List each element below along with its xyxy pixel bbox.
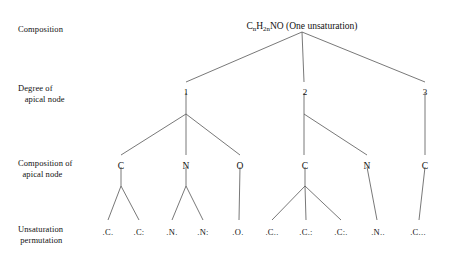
tree-edge bbox=[302, 32, 425, 82]
tree-node-comp-3-c: C bbox=[422, 162, 428, 171]
tree-edge bbox=[239, 167, 240, 220]
tree-node-perm-6: .C.. bbox=[265, 228, 278, 237]
tree-node-perm-9: .N.. bbox=[371, 228, 385, 237]
tree-node-perm-5: .O. bbox=[232, 228, 243, 237]
tree-node-comp-2-c: C bbox=[302, 162, 308, 171]
formula-tail: NO (One unsaturation) bbox=[270, 21, 358, 31]
tree-node-degree-1: 1 bbox=[184, 88, 189, 97]
tree-node-degree-3: 3 bbox=[423, 88, 428, 97]
tree-node-perm-8: .C:. bbox=[334, 228, 347, 237]
tree-edge bbox=[121, 114, 186, 155]
tree-edge bbox=[186, 186, 203, 220]
tree-node-perm-3: .N. bbox=[166, 228, 177, 237]
tree-node-perm-4: .N: bbox=[197, 228, 209, 237]
tree-edge bbox=[272, 186, 305, 220]
tree-node-perm-10: .C... bbox=[410, 228, 426, 237]
tree-edge bbox=[419, 167, 425, 220]
tree-edge bbox=[305, 186, 341, 220]
tree-edge bbox=[302, 32, 304, 82]
tree-edge bbox=[121, 186, 139, 220]
tree-node-comp-1-n: N bbox=[183, 162, 190, 171]
tree-edge bbox=[305, 186, 306, 220]
row-label-unsaturation-permutation: Unsaturation permutation bbox=[18, 224, 63, 245]
row-label-composition: Composition bbox=[18, 24, 63, 35]
tree-edge bbox=[304, 114, 367, 155]
tree-edge bbox=[186, 32, 302, 82]
tree-node-comp-2-n: N bbox=[364, 162, 371, 171]
root-node-formula: CnH2nNO (One unsaturation) bbox=[246, 22, 357, 33]
formula-h: H bbox=[256, 21, 263, 31]
tree-edge bbox=[367, 167, 377, 220]
tree-node-perm-2: .C: bbox=[133, 228, 144, 237]
tree-node-comp-1-c: C bbox=[118, 162, 124, 171]
figure-canvas: CompositionDegree of apical nodeComposit… bbox=[0, 0, 452, 262]
tree-node-perm-7: .C.: bbox=[299, 228, 312, 237]
row-label-composition-of-apical-node: Composition of apical node bbox=[18, 158, 73, 179]
tree-edge bbox=[172, 186, 186, 220]
tree-node-perm-1: .C. bbox=[103, 228, 114, 237]
tree-edge bbox=[186, 114, 240, 155]
row-label-degree-of-apical-node: Degree of apical node bbox=[18, 83, 65, 104]
tree-node-degree-2: 2 bbox=[303, 88, 308, 97]
tree-edges bbox=[0, 0, 452, 262]
tree-edge bbox=[108, 186, 121, 220]
tree-node-comp-1-o: O bbox=[237, 162, 244, 171]
